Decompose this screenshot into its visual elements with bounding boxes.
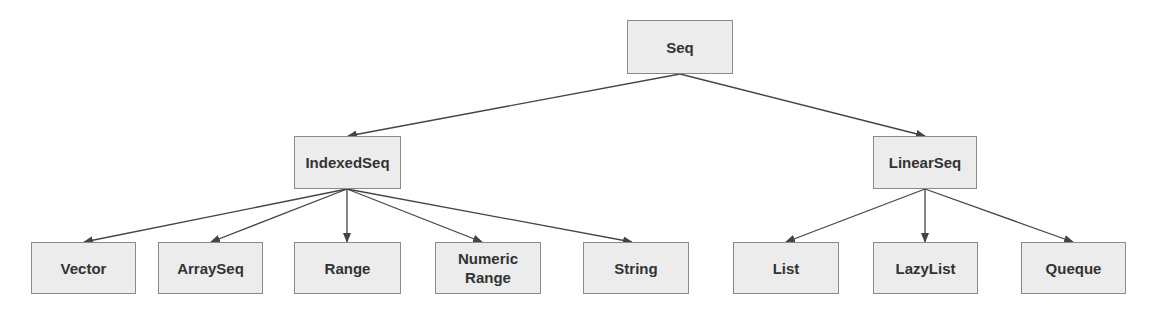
edge-seq-linearseq	[680, 74, 925, 136]
node-label-line2: Range	[465, 268, 511, 287]
edge-linearseq-list	[786, 189, 925, 242]
node-label: Seq	[666, 38, 694, 57]
edge-indexedseq-string	[347, 189, 632, 242]
node-numericrange: Numeric Range	[435, 242, 541, 294]
node-list: List	[733, 242, 839, 294]
edge-indexedseq-arrayseq	[211, 189, 347, 242]
node-label: ArraySeq	[177, 259, 244, 278]
node-label: Range	[325, 259, 371, 278]
node-label: LazyList	[895, 259, 955, 278]
node-label: IndexedSeq	[305, 153, 389, 172]
node-label: String	[614, 259, 657, 278]
node-linearseq: LinearSeq	[873, 136, 977, 189]
edge-indexedseq-vector	[84, 189, 347, 242]
edge-linearseq-queque	[925, 189, 1073, 242]
node-range: Range	[294, 242, 401, 294]
node-lazylist: LazyList	[873, 242, 978, 294]
node-vector: Vector	[31, 242, 136, 294]
diagram-canvas: Seq IndexedSeq LinearSeq Vector ArraySeq…	[0, 0, 1153, 318]
node-label: List	[773, 259, 800, 278]
node-label: Queque	[1046, 259, 1102, 278]
node-queque: Queque	[1021, 242, 1126, 294]
edge-seq-indexedseq	[348, 74, 680, 136]
node-string: String	[583, 242, 689, 294]
node-label-line1: Numeric	[458, 249, 518, 268]
edge-indexedseq-numericrange	[347, 189, 482, 242]
node-label: Vector	[61, 259, 107, 278]
node-indexedseq: IndexedSeq	[294, 136, 401, 189]
node-seq: Seq	[627, 20, 733, 74]
node-arrayseq: ArraySeq	[158, 242, 263, 294]
node-label: LinearSeq	[889, 153, 962, 172]
